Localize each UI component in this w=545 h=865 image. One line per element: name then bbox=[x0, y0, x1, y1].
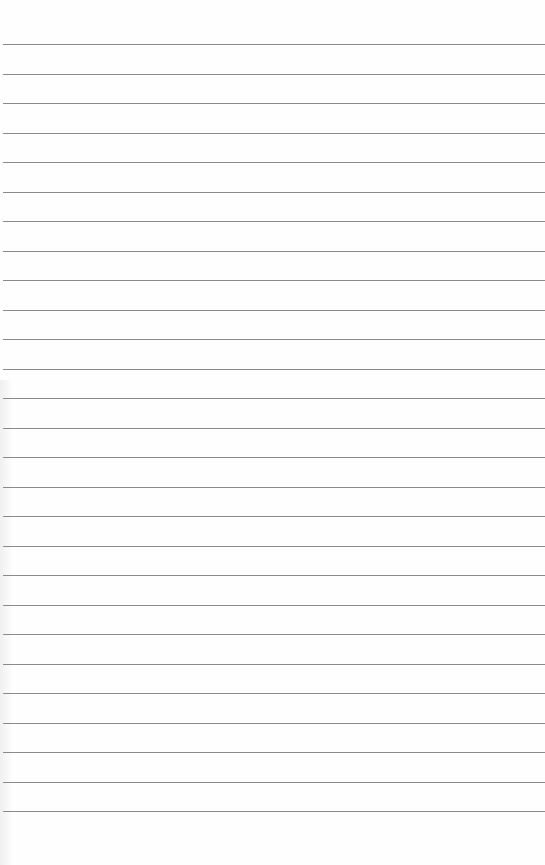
ruled-line bbox=[3, 457, 545, 458]
ruled-line bbox=[3, 782, 545, 783]
ruled-line bbox=[3, 192, 545, 193]
ruled-line bbox=[3, 487, 545, 488]
ruled-line bbox=[3, 428, 545, 429]
ruled-line bbox=[3, 752, 545, 753]
ruled-line bbox=[3, 546, 545, 547]
ruled-line bbox=[3, 74, 545, 75]
ruled-line bbox=[3, 605, 545, 606]
ruled-line bbox=[3, 44, 545, 45]
ruled-line bbox=[3, 575, 545, 576]
ruled-line bbox=[3, 310, 545, 311]
ruled-line bbox=[3, 516, 545, 517]
ruled-line bbox=[3, 398, 545, 399]
ruled-line bbox=[3, 162, 545, 163]
paper-edge-shadow bbox=[0, 380, 14, 865]
ruled-line bbox=[3, 103, 545, 104]
ruled-line bbox=[3, 133, 545, 134]
ruled-line bbox=[3, 723, 545, 724]
ruled-line bbox=[3, 693, 545, 694]
ruled-line bbox=[3, 221, 545, 222]
ruled-line bbox=[3, 664, 545, 665]
ruled-line bbox=[3, 811, 545, 812]
lined-paper-sheet bbox=[0, 0, 545, 865]
ruled-line bbox=[3, 251, 545, 252]
ruled-line bbox=[3, 280, 545, 281]
ruled-line bbox=[3, 634, 545, 635]
ruled-line bbox=[3, 369, 545, 370]
ruled-line bbox=[3, 339, 545, 340]
